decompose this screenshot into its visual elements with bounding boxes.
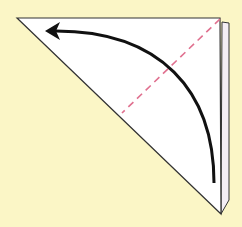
diagram-svg	[0, 0, 242, 227]
paper-back-layer	[221, 22, 229, 214]
origami-diagram	[0, 0, 242, 227]
